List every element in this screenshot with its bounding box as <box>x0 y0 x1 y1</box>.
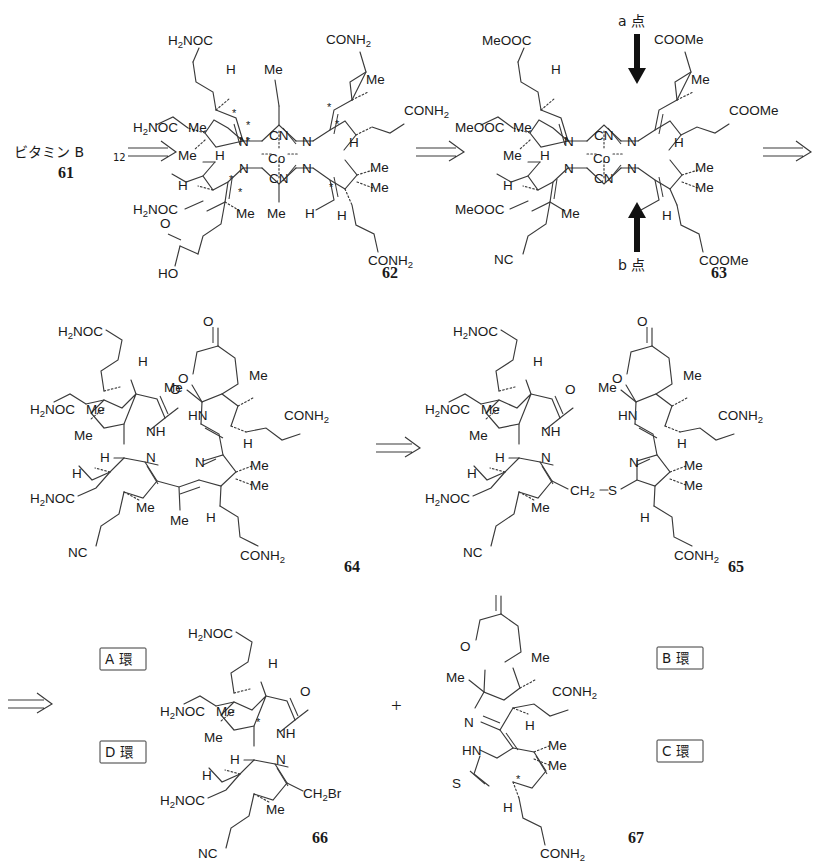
label-65-n-c: N <box>629 455 639 470</box>
label-62-conh2-top: CONH2 <box>326 32 371 49</box>
label-62-ho-acid: HO <box>158 266 178 281</box>
label-66-h-d: H <box>202 768 212 783</box>
label-62-o-acid: O <box>160 216 171 231</box>
compound-number-66: 66 <box>312 829 328 846</box>
label-64-h2noc-left: H2NOC <box>30 402 75 419</box>
retro-arrow-3 <box>763 141 811 161</box>
label-62-me-left: Me <box>188 120 207 135</box>
label-63-cn-top: CN <box>594 128 614 143</box>
retro-arrow-4 <box>376 437 420 457</box>
label-62-me-bot: Me <box>267 206 286 221</box>
label-64-nh: NH <box>146 424 166 439</box>
label-65-me-b: Me <box>683 368 702 383</box>
ring-label-b-text: B 環 <box>662 650 690 666</box>
label-67-h-c: H <box>503 800 513 815</box>
label-63-coome-right: COOMe <box>729 103 779 118</box>
label-64-me-c1: Me <box>250 458 269 473</box>
label-65-conh2-bot: CONH2 <box>674 548 719 565</box>
label-65-me-left2: Me <box>469 428 488 443</box>
label-62-me-b: Me <box>366 72 385 87</box>
stereo-star-7: * <box>238 186 243 198</box>
stereo-star-5: * <box>335 118 340 130</box>
label-67-conh2-right: CONH2 <box>552 684 597 701</box>
label-62-co: Co <box>268 151 285 166</box>
label-64-me-d: Me <box>136 500 155 515</box>
label-62-h-right: H <box>349 135 359 150</box>
label-63-n3: N <box>564 161 574 176</box>
label-64-me-left2: Me <box>74 428 93 443</box>
compound-number-63: 63 <box>711 264 727 281</box>
label-63-coome-top: COOMe <box>654 32 704 47</box>
ring-label-d: D 環 <box>100 741 146 763</box>
label-64-n-c: N <box>195 455 205 470</box>
label-62-h-bot: H <box>305 206 315 221</box>
label-65-me-c1: Me <box>684 458 703 473</box>
label-66-h-a: H <box>268 656 278 671</box>
a-point-label: a 点 <box>618 13 645 29</box>
label-65-conh2-right: CONH2 <box>718 408 763 425</box>
label-62-me-top: Me <box>264 62 283 77</box>
label-64-me-left: Me <box>86 402 105 417</box>
label-64-h-d: H <box>72 466 82 481</box>
label-65-o-lactone: O <box>612 371 623 386</box>
label-63-me-left2: Me <box>503 148 522 163</box>
stereo-star-6: * <box>229 173 234 185</box>
label-65-h-d: H <box>467 466 477 481</box>
label-65-me-left: Me <box>481 402 500 417</box>
compound-number-62: 62 <box>382 264 398 281</box>
label-66-nc: NC <box>198 846 218 861</box>
label-65-nh: NH <box>541 424 561 439</box>
ring-label-b: B 環 <box>657 647 703 669</box>
label-63-me-c2: Me <box>695 180 714 195</box>
ring-label-a: A 環 <box>100 648 146 670</box>
label-64-h-a: H <box>138 354 148 369</box>
stereo-star-2: * <box>246 119 251 131</box>
label-67-n-b: N <box>464 715 474 730</box>
label-64-me-b: Me <box>249 368 268 383</box>
plus-sign: + <box>391 695 402 716</box>
label-62-h-a: H <box>226 62 236 77</box>
label-64-conh2-right: CONH2 <box>284 408 329 425</box>
compound-66-structure: H2NOC H O NH * H2NOC Me Me H N H H2NOC M… <box>160 626 342 861</box>
label-62-me-c1: Me <box>370 160 389 175</box>
label-66-me-d: Me <box>266 802 285 817</box>
label-64-h2noc-bot: H2NOC <box>30 491 75 508</box>
stereo-star-8: * <box>329 181 334 193</box>
scheme-svg: ビタミン B 12 61 H2NOC H * * * H2NOC Me Me <box>0 0 827 862</box>
label-62-n3: N <box>239 161 249 176</box>
label-65-o-lactam: O <box>565 382 576 397</box>
compound-67-structure: O Me Me H CONH2 N HN S Me Me * H CONH2 <box>446 595 644 862</box>
starting-material-group: ビタミン B 12 61 <box>14 144 126 181</box>
label-62-conh2-right: CONH2 <box>404 103 449 120</box>
chemistry-scheme-canvas: ビタミン B 12 61 H2NOC H * * * H2NOC Me Me <box>0 0 827 862</box>
label-62-me-c2: Me <box>370 180 389 195</box>
label-65-h-c: H <box>640 510 650 525</box>
label-64-o-lactone: O <box>178 371 189 386</box>
compound-number-65: 65 <box>728 558 744 575</box>
label-64-h-nh: H <box>100 450 110 465</box>
label-65-nc: NC <box>463 545 483 560</box>
label-63-meooc-left: MeOOC <box>455 120 505 135</box>
label-66-h2noc-bot: H2NOC <box>160 793 205 810</box>
label-63-me-d: Me <box>561 206 580 221</box>
label-65-h-a: H <box>533 354 543 369</box>
retro-arrow-2 <box>416 141 464 161</box>
label-63-h-a: H <box>551 62 561 77</box>
label-65-h-b: H <box>677 436 687 451</box>
label-65-o-carbonyl: O <box>637 314 648 329</box>
label-63-me-left: Me <box>513 120 532 135</box>
label-62-h2noc-left: H2NOC <box>133 120 178 137</box>
retro-arrow-1 <box>128 141 176 161</box>
stereo-star-1: * <box>232 107 237 119</box>
label-62-h2noc-bot: H2NOC <box>133 202 178 219</box>
label-64-o-carbonyl: O <box>203 314 214 329</box>
label-65-h2noc-left: H2NOC <box>425 402 470 419</box>
b-point-label: b 点 <box>618 257 645 273</box>
compound-number-64: 64 <box>344 558 360 575</box>
label-62-cn-top: CN <box>269 128 289 143</box>
retro-arrow-5 <box>8 693 52 713</box>
compound-64-structure: H2NOC H O NH H2NOC Me Me H N H H2NOC Me … <box>30 314 360 575</box>
label-67-me-c2: Me <box>548 758 567 773</box>
label-66-me-left: Me <box>216 704 235 719</box>
label-64-hn-b: HN <box>188 408 208 423</box>
